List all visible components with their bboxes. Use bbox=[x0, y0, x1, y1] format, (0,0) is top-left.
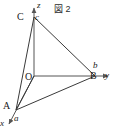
intercept-label-b: b bbox=[93, 61, 98, 70]
vertex-label-B: B bbox=[90, 71, 97, 81]
intercept-label-a: a bbox=[14, 114, 19, 123]
figure-container: C c z 図 2 b B y O A a x bbox=[0, 0, 114, 137]
edge-CB bbox=[34, 17, 95, 76]
vertex-label-C: C bbox=[17, 12, 24, 22]
vertex-label-A: A bbox=[3, 101, 10, 111]
intercept-label-c: c bbox=[35, 13, 39, 22]
axis-label-x: x bbox=[0, 119, 4, 128]
axis-label-y: y bbox=[105, 71, 109, 80]
edge-CA bbox=[16, 17, 34, 110]
origin-label: O bbox=[25, 72, 32, 82]
figure-caption: 図 2 bbox=[54, 5, 71, 14]
axis-label-z: z bbox=[37, 1, 41, 10]
